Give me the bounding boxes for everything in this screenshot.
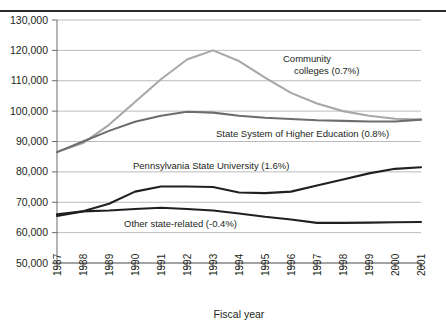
series-line-2 bbox=[57, 167, 421, 216]
line-chart: 50,00060,00070,00080,00090,000100,000110… bbox=[0, 0, 446, 326]
y-axis-tick-label: 110,000 bbox=[11, 74, 48, 86]
x-axis-tick-label: 2001 bbox=[416, 253, 427, 276]
x-axis-tick-label: 1995 bbox=[260, 253, 271, 276]
y-axis-tick-label: 120,000 bbox=[10, 44, 48, 56]
series-annotation-label: State System of Higher Education (0.8%) bbox=[216, 128, 389, 139]
series-annotation-label: Other state-related (-0.4%) bbox=[124, 218, 237, 229]
x-axis-tick-label: 1999 bbox=[364, 253, 375, 276]
series-annotation-label: Pennsylvania State University (1.6%) bbox=[133, 160, 289, 171]
x-axis-tick-label: 1990 bbox=[130, 253, 141, 276]
y-axis-tick-label: 130,000 bbox=[10, 14, 48, 26]
y-axis-tick-label: 90,000 bbox=[16, 135, 48, 147]
x-axis-tick-label: 1988 bbox=[78, 253, 89, 276]
series-line-3 bbox=[57, 208, 421, 223]
y-axis-tick-label: 70,000 bbox=[16, 196, 48, 208]
x-axis-tick-label: 1997 bbox=[312, 253, 323, 276]
x-axis-tick-label: 1998 bbox=[338, 253, 349, 276]
x-axis-tick-label: 2000 bbox=[390, 253, 401, 276]
x-axis-title: Fiscal year bbox=[214, 308, 265, 320]
x-axis-tick-label: 1991 bbox=[156, 253, 167, 276]
y-axis-tick-label: 100,000 bbox=[10, 105, 48, 117]
y-axis-tick-label: 60,000 bbox=[16, 226, 48, 238]
x-axis-tick-label: 1993 bbox=[208, 253, 219, 276]
x-axis-tick-label: 1989 bbox=[104, 253, 115, 276]
series-annotation-label: colleges (0.7%) bbox=[294, 65, 359, 76]
y-axis-tick-label: 50,000 bbox=[16, 257, 48, 269]
x-axis-tick-label: 1992 bbox=[182, 253, 193, 276]
y-axis-tick-label: 80,000 bbox=[16, 165, 48, 177]
x-axis-tick-label: 1994 bbox=[234, 253, 245, 276]
x-axis-tick-label: 1987 bbox=[52, 253, 63, 276]
chart-canvas: 50,00060,00070,00080,00090,000100,000110… bbox=[0, 0, 446, 326]
x-axis-tick-label: 1996 bbox=[286, 253, 297, 276]
series-annotation-label: Community bbox=[283, 53, 331, 64]
